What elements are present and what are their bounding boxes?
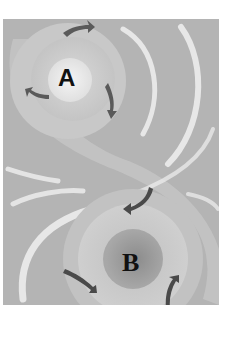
pressure-systems-diagram bbox=[3, 19, 219, 305]
label-system-b: B bbox=[122, 248, 139, 278]
label-system-a: A bbox=[58, 64, 75, 92]
